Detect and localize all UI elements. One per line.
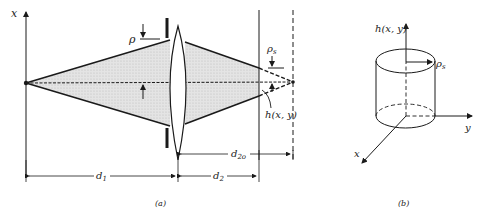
- rho-s-label: ρs: [266, 43, 277, 56]
- lens: [170, 26, 186, 160]
- x-axis-b-label: x: [354, 148, 360, 159]
- rho-label: ρ: [128, 33, 136, 46]
- caption-a: (a): [155, 199, 166, 208]
- figure-a: x ρ ρs h(x, y): [11, 7, 297, 208]
- rho-s-label-b: ρs: [435, 58, 446, 71]
- focal-point: [291, 80, 295, 84]
- x-axis-b: [362, 116, 406, 163]
- h-axis-label: h(x, y): [375, 23, 407, 34]
- y-axis-label: y: [464, 122, 471, 133]
- caption-b: (b): [398, 199, 409, 208]
- h-label: h(x, y): [265, 109, 297, 120]
- figure-b: h(x, y) ρs y x (b): [354, 23, 472, 208]
- cylinder-bottom-front: [376, 116, 435, 128]
- converge-ray-top: [259, 68, 293, 82]
- converge-ray-bottom: [259, 82, 293, 96]
- x-axis-label: x: [11, 7, 18, 20]
- diagram-canvas: x ρ ρs h(x, y): [0, 0, 481, 216]
- cylinder-bottom-back: [376, 104, 435, 116]
